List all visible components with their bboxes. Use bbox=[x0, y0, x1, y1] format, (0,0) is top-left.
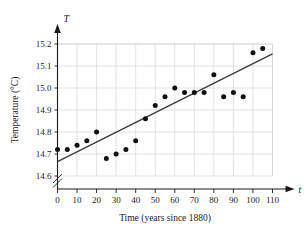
data-point bbox=[163, 94, 168, 99]
x-tick-label: 60 bbox=[170, 195, 180, 205]
data-point bbox=[75, 143, 80, 148]
data-point bbox=[133, 138, 138, 143]
x-tick-label: 100 bbox=[246, 195, 260, 205]
data-point bbox=[172, 86, 177, 91]
regression-trend-line bbox=[58, 54, 273, 162]
y-axis-variable-label: T bbox=[64, 13, 71, 24]
data-point bbox=[153, 103, 158, 108]
data-point bbox=[104, 156, 109, 161]
x-tick-label: 50 bbox=[151, 195, 161, 205]
data-point bbox=[114, 152, 119, 157]
x-tick-label: 90 bbox=[229, 195, 239, 205]
y-tick-label: 14.8 bbox=[36, 127, 52, 137]
x-tick-label: 0 bbox=[55, 195, 60, 205]
y-tick-label: 15.0 bbox=[36, 83, 52, 93]
data-point bbox=[84, 138, 89, 143]
x-tick-label: 30 bbox=[112, 195, 122, 205]
data-point bbox=[250, 50, 255, 55]
data-point bbox=[260, 46, 265, 51]
x-tick-label: 70 bbox=[190, 195, 200, 205]
data-point bbox=[211, 72, 216, 77]
x-tick-label: 10 bbox=[73, 195, 83, 205]
x-tick-label: 80 bbox=[209, 195, 219, 205]
x-axis: 0102030405060708090100110 bbox=[55, 186, 294, 205]
data-point bbox=[94, 130, 99, 135]
y-tick-label: 15.1 bbox=[36, 61, 52, 71]
data-point bbox=[55, 147, 60, 152]
gridlines bbox=[58, 44, 273, 176]
data-point bbox=[65, 147, 70, 152]
y-tick-label: 14.7 bbox=[36, 149, 52, 159]
x-tick-label: 20 bbox=[92, 195, 102, 205]
x-tick-label: 40 bbox=[131, 195, 141, 205]
x-axis-title: Time (years since 1880) bbox=[119, 213, 211, 224]
data-point bbox=[221, 94, 226, 99]
x-axis-variable-label: t bbox=[299, 184, 302, 195]
y-tick-label: 14.6 bbox=[36, 171, 52, 181]
data-point bbox=[123, 147, 128, 152]
data-point bbox=[143, 116, 148, 121]
temperature-scatter-figure: 14.614.714.814.915.015.115.2 01020304050… bbox=[0, 0, 308, 236]
data-point bbox=[231, 90, 236, 95]
chart-canvas: 14.614.714.814.915.015.115.2 01020304050… bbox=[0, 0, 308, 236]
y-axis: 14.614.714.814.915.015.115.2 bbox=[36, 24, 62, 189]
data-point bbox=[202, 90, 207, 95]
data-point bbox=[241, 94, 246, 99]
y-axis-title: Temperature (°C) bbox=[10, 77, 21, 144]
x-tick-label: 110 bbox=[266, 195, 280, 205]
y-tick-label: 14.9 bbox=[36, 105, 52, 115]
data-point bbox=[192, 90, 197, 95]
y-tick-label: 15.2 bbox=[36, 39, 52, 49]
data-point bbox=[182, 90, 187, 95]
